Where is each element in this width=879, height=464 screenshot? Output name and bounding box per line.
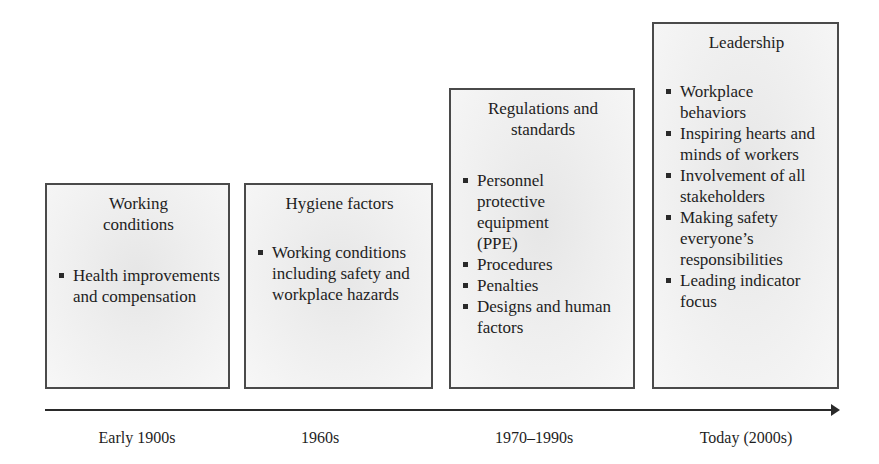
arrow-right-icon <box>831 404 840 416</box>
stage-box-leadership: Leadership Workplace behaviors Inspiring… <box>652 22 839 389</box>
stage-list-item: Penalties <box>461 275 625 296</box>
stage-list: Health improvements and compensation <box>57 265 220 307</box>
stage-list-item: Workplace behaviors <box>664 81 829 123</box>
stage-list-item: Working conditions including safety and … <box>256 242 423 305</box>
stage-title: Regulations and standards <box>463 98 623 140</box>
stage-title: Leadership <box>664 32 829 53</box>
stage-box-working-conditions: Working conditions Health improvements a… <box>45 183 230 389</box>
era-label: 1960s <box>225 429 415 447</box>
stage-list-item: Procedures <box>461 254 625 275</box>
stage-title: Hygiene factors <box>256 193 423 214</box>
timeline-axis <box>45 409 833 411</box>
era-label: 1970–1990s <box>439 429 629 447</box>
era-label: Today (2000s) <box>651 429 841 447</box>
stage-list-item: Designs and human factors <box>461 296 625 338</box>
stage-list-item: Inspiring hearts and minds of workers <box>664 123 829 165</box>
stage-list: Working conditions including safety and … <box>256 242 423 305</box>
era-label: Early 1900s <box>42 429 232 447</box>
stage-box-hygiene-factors: Hygiene factors Working conditions inclu… <box>244 183 433 389</box>
stage-list-item: Making safety everyone’s responsibilitie… <box>664 207 829 270</box>
stage-list: Personnel protective equipment (PPE) Pro… <box>461 170 625 338</box>
stage-list-item: Involvement of all stakeholders <box>664 165 829 207</box>
stage-list: Workplace behaviors Inspiring hearts and… <box>664 81 829 312</box>
stage-list-item: Leading indicator focus <box>664 270 829 312</box>
stage-box-regulations-standards: Regulations and standards Personnel prot… <box>449 88 635 389</box>
stage-list-item: Health improvements and compensation <box>57 265 220 307</box>
stage-title: Working conditions <box>79 193 199 235</box>
stage-list-item: Personnel protective equipment (PPE) <box>461 170 625 254</box>
